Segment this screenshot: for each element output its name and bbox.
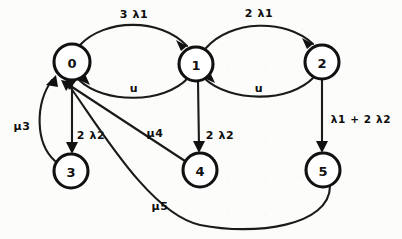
edge-2-to-5: λ1 + 2 λ2 [316, 79, 391, 153]
node-4-label: 4 [195, 164, 204, 179]
node-0[interactable]: 0 [54, 44, 90, 80]
edge-label-mu3: μ3 [14, 120, 31, 133]
edge-3-to-0-arrowhead [46, 75, 58, 87]
edge-3-to-0: μ3 [14, 75, 58, 161]
edge-0-to-3-arrowhead [66, 142, 78, 154]
node-1[interactable]: 1 [179, 47, 213, 81]
node-4[interactable]: 4 [183, 153, 217, 187]
edge-label-mu4: μ4 [147, 127, 164, 140]
node-1-label: 1 [191, 58, 200, 73]
node-2[interactable]: 2 [305, 45, 339, 79]
edge-1-to-2-path [206, 26, 313, 48]
state-diagram-canvas: 3 λ1 2 λ1 u u 2 λ2 2 [0, 0, 402, 239]
edge-label-u-left: u [130, 82, 138, 95]
edge-0-to-1-path [80, 25, 187, 46]
edge-label-2-lambda1: 2 λ1 [245, 7, 274, 20]
edge-3-to-0-path [40, 80, 55, 161]
edge-4-to-0-path [66, 83, 185, 161]
edge-label-mu5: μ5 [152, 200, 169, 213]
node-0-label: 0 [67, 56, 76, 71]
edge-label-3-lambda1: 3 λ1 [120, 8, 149, 21]
edge-0-to-1: 3 λ1 [80, 8, 187, 52]
node-3[interactable]: 3 [54, 154, 88, 188]
edge-label-u-right: u [255, 82, 263, 95]
node-5-label: 5 [318, 164, 327, 179]
edge-1-to-4-path [198, 81, 199, 147]
node-2-label: 2 [317, 56, 326, 71]
edge-label-2-lambda2-mid: 2 λ2 [206, 129, 235, 142]
edge-label-lambda1-plus-2-lambda2: λ1 + 2 λ2 [331, 113, 391, 125]
edge-1-to-0: u [79, 74, 188, 98]
node-5[interactable]: 5 [306, 153, 340, 187]
state-transition-diagram: 3 λ1 2 λ1 u u 2 λ2 2 [0, 0, 402, 239]
edge-2-to-5-arrowhead [316, 141, 328, 153]
edge-1-to-2: 2 λ1 [206, 7, 313, 50]
edge-2-to-1: u [204, 72, 314, 97]
edge-1-to-4-arrowhead [193, 141, 205, 153]
node-3-label: 3 [66, 165, 75, 180]
